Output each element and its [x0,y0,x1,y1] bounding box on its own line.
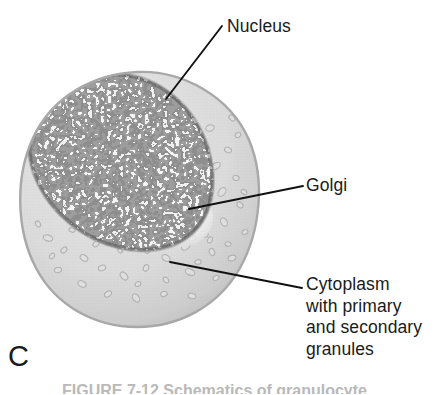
panel-letter: C [8,340,29,372]
figure-caption: FIGURE 7-12 Schematics of granulocyte [62,381,437,394]
label-cytoplasm: Cytoplasm with primary and secondary gra… [306,274,422,360]
label-nucleus: Nucleus [227,16,291,38]
figure-panel-c: Nucleus Golgi Cytoplasm with primary and… [0,0,444,395]
label-golgi: Golgi [306,175,347,197]
